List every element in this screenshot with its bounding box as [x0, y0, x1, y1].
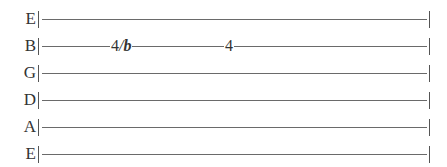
string-label: B: [22, 36, 36, 56]
string-line: [42, 46, 427, 47]
string-label: E: [22, 144, 36, 164]
tab-string-row-a: A: [0, 114, 447, 140]
string-line: [42, 154, 427, 155]
string-label: E: [22, 9, 36, 29]
left-barline: [38, 146, 39, 163]
left-barline: [38, 11, 39, 28]
string-line: [42, 73, 427, 74]
string-label: A: [22, 117, 36, 137]
left-barline: [38, 65, 39, 82]
guitar-tablature: E B 4/b 4 G D A E: [0, 0, 447, 167]
fret-number: 4: [225, 37, 233, 54]
right-barline: [429, 119, 430, 136]
fret-number: 4: [111, 37, 119, 54]
bend-symbol: b: [123, 37, 131, 54]
string-line: [42, 100, 427, 101]
string-line: [42, 19, 427, 20]
string-label: G: [22, 63, 36, 83]
tab-string-row-g: G: [0, 60, 447, 86]
tab-string-row-d: D: [0, 87, 447, 113]
left-barline: [38, 38, 39, 55]
tab-note: 4: [224, 36, 234, 56]
string-label: D: [22, 90, 36, 110]
right-barline: [429, 146, 430, 163]
right-barline: [429, 65, 430, 82]
right-barline: [429, 92, 430, 109]
tab-note-slide-bend: 4/b: [110, 36, 132, 56]
left-barline: [38, 92, 39, 109]
left-barline: [38, 119, 39, 136]
right-barline: [429, 38, 430, 55]
tab-string-row-high-e: E: [0, 6, 447, 32]
tab-string-row-b: B 4/b 4: [0, 33, 447, 59]
string-line: [42, 127, 427, 128]
tab-string-row-low-e: E: [0, 141, 447, 167]
right-barline: [429, 11, 430, 28]
